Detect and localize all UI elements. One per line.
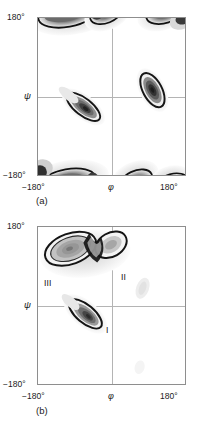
region-label-i: I — [106, 326, 109, 335]
y-tick-top-b: 180° — [7, 222, 25, 231]
figure-ramachandran-plots: 180° −180° ψ −180° φ 180° (a) — [0, 0, 209, 427]
x-tick-left-b: −180° — [22, 392, 45, 401]
y-axis-label-b: ψ — [24, 300, 31, 310]
density-contours-a — [38, 18, 185, 175]
panel-b: III II I 180° −180° ψ −180° φ 180° (b) — [0, 213, 209, 427]
y-tick-top-a: 180° — [7, 13, 25, 22]
panel-a: 180° −180° ψ −180° φ 180° (a) — [0, 0, 209, 213]
y-tick-bottom-a: −180° — [3, 171, 26, 180]
y-axis-label-a: ψ — [24, 91, 31, 101]
x-tick-left-a: −180° — [22, 183, 45, 192]
plot-area-a — [37, 17, 186, 176]
region-label-iii: III — [44, 279, 52, 288]
x-tick-right-a: 180° — [160, 183, 178, 192]
x-axis-label-a: φ — [108, 183, 114, 192]
panel-caption-b: (b) — [36, 406, 48, 416]
plot-area-b: III II I — [37, 226, 186, 385]
x-tick-right-b: 180° — [160, 392, 178, 401]
y-tick-bottom-b: −180° — [3, 380, 26, 389]
panel-caption-a: (a) — [36, 196, 48, 206]
x-axis-label-b: φ — [108, 392, 114, 401]
density-contours-b — [38, 227, 185, 384]
region-label-ii: II — [121, 273, 126, 282]
